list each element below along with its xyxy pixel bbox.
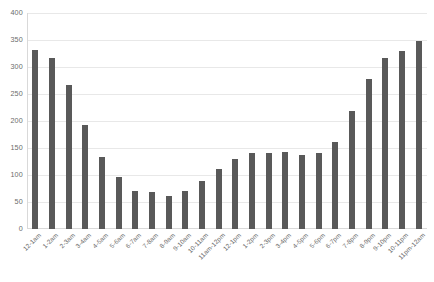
x-axis-tick-label: 7-8am (142, 232, 160, 250)
y-axis-tick-label: 400 (10, 9, 23, 16)
bar (382, 58, 388, 229)
bar (282, 152, 288, 229)
y-axis-tick-label: 350 (10, 36, 23, 43)
bar (416, 41, 422, 229)
bar (366, 79, 372, 229)
bar (116, 177, 122, 229)
bar (349, 111, 355, 229)
x-axis-tick-label: 2-3pm (258, 232, 276, 250)
bars-layer (27, 13, 427, 229)
bar (232, 159, 238, 229)
y-axis-tick-label: 250 (10, 90, 23, 97)
bar (249, 153, 255, 229)
x-axis-tick-label: 1-2pm (242, 232, 260, 250)
x-axis-tick-label: 4-5pm (292, 232, 310, 250)
x-axis-tick-label: 3-4pm (275, 232, 293, 250)
bar (182, 191, 188, 229)
bar (99, 157, 105, 229)
x-axis-tick-label: 3-4am (75, 232, 93, 250)
bar (199, 181, 205, 229)
x-axis-tick-label: 7-8pm (342, 232, 360, 250)
bar (32, 50, 38, 229)
bar (49, 58, 55, 229)
bar (299, 155, 305, 229)
y-axis-tick-label: 100 (10, 171, 23, 178)
x-axis: 12-1am1-2am2-3am3-4am4-5am5-6am6-7am7-8a… (27, 230, 427, 282)
x-axis-tick-label: 2-3am (58, 232, 76, 250)
y-axis-tick-label: 200 (10, 117, 23, 124)
x-axis-tick-label: 6-7pm (325, 232, 343, 250)
y-axis-tick-label: 300 (10, 63, 23, 70)
y-axis-tick-label: 50 (15, 198, 23, 205)
x-axis-tick-label: 5-6am (108, 232, 126, 250)
x-axis-tick-label: 1-2am (42, 232, 60, 250)
bar (316, 153, 322, 229)
bar (166, 196, 172, 229)
x-axis-tick-label: 5-6pm (308, 232, 326, 250)
bar (266, 153, 272, 229)
bar (82, 125, 88, 229)
bar-chart: 050100150200250300350400 12-1am1-2am2-3a… (0, 0, 434, 282)
bar (216, 169, 222, 229)
y-axis: 050100150200250300350400 (0, 0, 27, 232)
y-axis-tick-label: 0 (19, 225, 23, 232)
x-axis-tick-label: 12-1am (23, 232, 43, 252)
bar (399, 51, 405, 229)
bar (332, 142, 338, 229)
bar (66, 85, 72, 229)
y-axis-tick-label: 150 (10, 144, 23, 151)
bar (132, 191, 138, 229)
bar (149, 192, 155, 229)
x-axis-tick-label: 4-5am (92, 232, 110, 250)
x-axis-tick-label: 6-7am (125, 232, 143, 250)
